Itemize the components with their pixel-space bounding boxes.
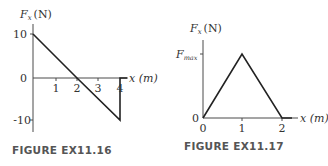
x-tick-label: 3 [95,82,102,95]
x-axis-label: x (m) [129,72,158,85]
y-tick-label: 0 [20,72,27,85]
figure-ex11-16: Fx(N) x (m) 10 0 -10 1 2 3 4 FIGURE EX11… [12,8,158,156]
x-tick-label: 2 [279,122,286,135]
y-tick-label: 10 [13,28,27,41]
x-tick-label: 1 [239,122,246,135]
figure-caption: FIGURE EX11.17 [184,140,284,152]
figure-caption: FIGURE EX11.16 [12,144,112,156]
figure-ex11-17: Fx(N) x (m) 0 Fmax 0 1 2 FIGURE EX11.17 [175,22,328,152]
x-tick-label: 0 [200,122,207,135]
x-tick-label: 4 [117,82,124,95]
y-tick-label: 0 [192,112,199,125]
y-axis-label: Fx(N) [189,22,222,36]
figures-canvas: Fx(N) x (m) 10 0 -10 1 2 3 4 FIGURE EX11… [0,0,328,166]
x-axis-label: x (m) [300,112,328,125]
x-tick-label: 2 [74,82,81,95]
y-tick-label: -10 [13,114,31,127]
y-axis-label: Fx(N) [19,8,52,22]
y-tick-label-fmax: Fmax [175,48,198,62]
x-tick-label: 1 [53,82,60,95]
force-line [33,34,127,120]
force-triangle [203,54,292,118]
